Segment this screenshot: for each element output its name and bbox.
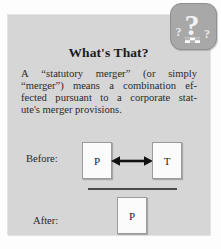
before-label: Before:: [26, 153, 58, 164]
body-word: ef-: [185, 80, 197, 92]
body-word: A: [21, 68, 29, 80]
body-word: means: [73, 80, 100, 92]
body-paragraph: A “statutory merger” (or simply “merger”…: [21, 68, 197, 116]
body-word: a: [117, 92, 122, 104]
body-word: a: [109, 80, 114, 92]
body-word: “merger”): [21, 80, 64, 92]
double-headed-arrow-icon: [111, 153, 153, 169]
svg-text:?: ?: [185, 8, 200, 41]
question-mark-badge-icon: ? ? ?: [170, 3, 217, 50]
body-word: merger”: [96, 68, 131, 80]
body-line-3: fected pursuant to a corporate stat-: [21, 92, 197, 104]
before-entity-p: P: [82, 142, 112, 179]
body-word: pursuant: [55, 92, 91, 104]
body-word: simply: [168, 68, 197, 80]
body-line-2: “merger”) means a combination ef-: [21, 80, 197, 92]
body-word: stat-: [179, 92, 197, 104]
after-entity-p: P: [117, 197, 147, 234]
body-word: corporate: [130, 92, 170, 104]
divider-rule: [88, 188, 177, 190]
svg-text:?: ?: [176, 25, 182, 39]
body-word: fected: [21, 92, 47, 104]
svg-text:?: ?: [204, 27, 210, 41]
body-word: “statutory: [41, 68, 83, 80]
body-word: to: [100, 92, 108, 104]
body-word: (or: [143, 68, 155, 80]
body-line-1: A “statutory merger” (or simply: [21, 68, 197, 80]
document-page: What's That? A “statutory merger” (or si…: [0, 0, 221, 249]
after-label: After:: [33, 215, 58, 226]
before-entity-t: T: [152, 142, 182, 179]
body-word: combination: [123, 80, 176, 92]
body-line-4: ute's merger provisions.: [21, 104, 197, 116]
